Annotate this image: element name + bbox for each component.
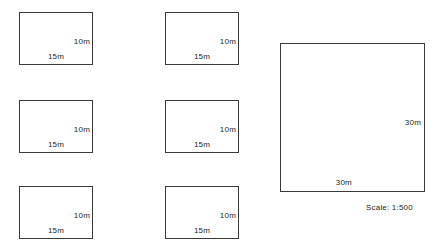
plot-2-height-label: 10m [220, 38, 236, 46]
plot-rectangle-6[interactable]: 10m 15m [165, 186, 239, 239]
plot-6-height-label: 10m [220, 212, 236, 220]
plot-rectangle-1[interactable]: 10m 15m [19, 12, 93, 65]
plot-2-width-label: 15m [194, 53, 210, 61]
plot-1-width-label: 15m [48, 53, 64, 61]
scale-note: Scale: 1:500 [366, 203, 413, 212]
plot-5-height-label: 10m [74, 212, 90, 220]
plot-rectangle-3[interactable]: 10m 15m [19, 100, 93, 153]
plot-3-width-label: 15m [48, 141, 64, 149]
plot-6-width-label: 15m [194, 227, 210, 235]
drawing-canvas: 10m 15m 10m 15m 10m 15m 10m 15m 10m 15m … [0, 0, 441, 246]
plot-4-width-label: 15m [194, 141, 210, 149]
plot-rectangle-5[interactable]: 10m 15m [19, 186, 93, 239]
plot-rectangle-4[interactable]: 10m 15m [165, 100, 239, 153]
plot-5-width-label: 15m [48, 227, 64, 235]
plot-4-height-label: 10m [220, 126, 236, 134]
large-plot-height-label: 30m [405, 119, 421, 127]
plot-3-height-label: 10m [74, 126, 90, 134]
plot-1-height-label: 10m [74, 38, 90, 46]
plot-rectangle-large[interactable]: 30m 30m [280, 43, 425, 192]
large-plot-width-label: 30m [336, 179, 352, 187]
plot-rectangle-2[interactable]: 10m 15m [165, 12, 239, 65]
